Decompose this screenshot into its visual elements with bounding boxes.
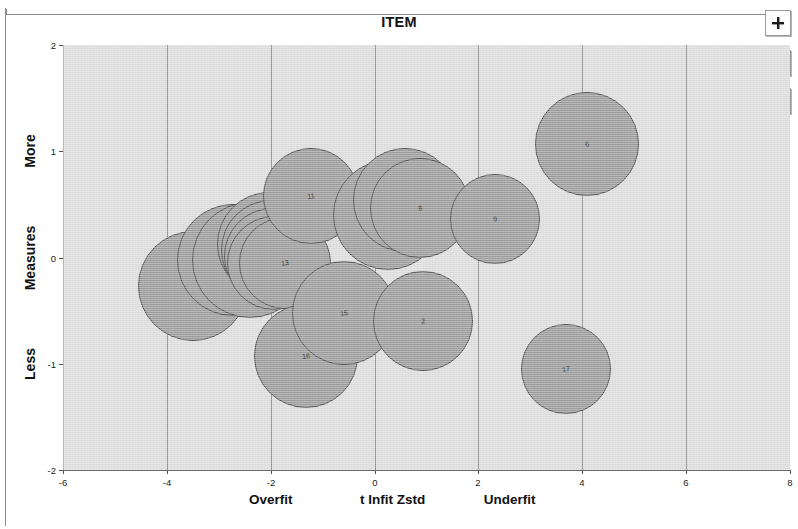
x-tick-mark xyxy=(790,470,791,474)
x-tick-label: 2 xyxy=(475,477,480,488)
page-title: ITEM xyxy=(0,14,798,30)
y-axis-segment-label: Measures xyxy=(22,225,38,290)
y-tick-label: -1 xyxy=(48,359,56,370)
y-axis-segment-label: More xyxy=(22,135,38,168)
x-tick-mark xyxy=(63,470,64,474)
x-tick-mark xyxy=(375,470,376,474)
y-axis-segment-label: Less xyxy=(22,348,38,380)
y-tick-label: 2 xyxy=(51,40,56,51)
plot-area[interactable]: 410163751413111815112829617 xyxy=(63,45,790,470)
gridline-vertical xyxy=(686,45,687,470)
plus-icon xyxy=(771,16,785,30)
y-tick-mark xyxy=(59,364,63,365)
x-tick-mark xyxy=(167,470,168,474)
bubble-point[interactable] xyxy=(450,174,540,264)
x-tick-mark xyxy=(582,470,583,474)
x-tick-label: 8 xyxy=(787,477,792,488)
x-tick-label: 0 xyxy=(372,477,377,488)
x-tick-label: -4 xyxy=(163,477,171,488)
x-axis-segment-label: Overfit xyxy=(249,492,293,507)
x-axis-segment-label: Underfit xyxy=(484,492,536,507)
bubble-point[interactable] xyxy=(373,271,473,371)
y-tick-mark xyxy=(59,45,63,46)
x-tick-mark xyxy=(478,470,479,474)
x-tick-label: 6 xyxy=(683,477,688,488)
bubble-point[interactable] xyxy=(521,324,611,414)
y-tick-mark xyxy=(59,151,63,152)
x-tick-label: -6 xyxy=(59,477,67,488)
y-tick-label: 1 xyxy=(51,146,56,157)
y-tick-mark xyxy=(59,470,63,471)
y-tick-mark xyxy=(59,258,63,259)
bubble-point[interactable] xyxy=(535,92,639,196)
x-tick-mark xyxy=(271,470,272,474)
x-tick-label: 4 xyxy=(579,477,584,488)
x-tick-mark xyxy=(686,470,687,474)
x-tick-label: -2 xyxy=(267,477,275,488)
y-axis-line xyxy=(63,45,64,471)
x-axis-line xyxy=(63,470,791,471)
x-axis-segment-label: t Infit Zstd xyxy=(360,492,425,507)
y-tick-label: 0 xyxy=(51,253,56,264)
window-frame-left xyxy=(5,8,6,526)
y-tick-label: -2 xyxy=(48,465,56,476)
add-button[interactable] xyxy=(765,10,791,36)
chart-window: ITEM 410163751413111815112829617 xyxy=(0,0,798,529)
